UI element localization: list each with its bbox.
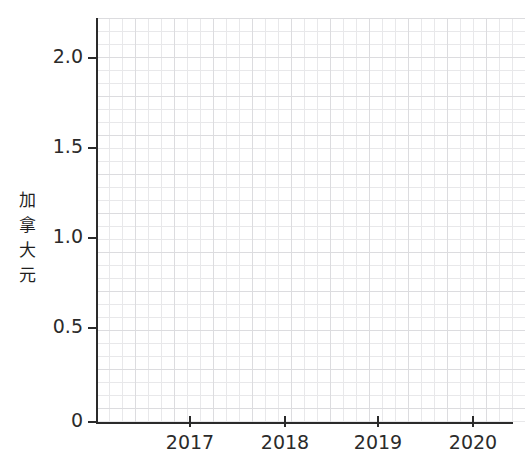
x-tick-mark bbox=[377, 416, 379, 427]
x-tick-label: 2019 bbox=[338, 431, 418, 453]
x-tick-mark bbox=[189, 416, 191, 427]
x-axis-spine bbox=[96, 422, 513, 424]
x-tick-label: 2018 bbox=[245, 431, 325, 453]
y-axis-title-char: 元 bbox=[14, 263, 40, 288]
y-tick-mark bbox=[88, 237, 97, 239]
y-tick-mark bbox=[88, 421, 97, 423]
y-tick-mark bbox=[88, 147, 97, 149]
y-tick-label: 1.5 bbox=[0, 135, 83, 157]
y-axis-title-char: 拿 bbox=[14, 213, 40, 238]
y-tick-label: 2.0 bbox=[0, 45, 83, 67]
plot-area bbox=[96, 18, 525, 422]
x-tick-mark bbox=[284, 416, 286, 427]
chart-figure: 2.01.51.00.50 2017201820192020 加拿大元 bbox=[0, 0, 525, 466]
y-axis-title: 加拿大元 bbox=[14, 188, 40, 288]
grid-major-lines bbox=[96, 18, 525, 422]
y-tick-label: 0.5 bbox=[0, 315, 83, 337]
x-tick-mark bbox=[472, 416, 474, 427]
y-tick-mark bbox=[88, 57, 97, 59]
y-tick-mark bbox=[88, 327, 97, 329]
y-tick-label: 0 bbox=[0, 409, 83, 431]
x-tick-label: 2020 bbox=[433, 431, 513, 453]
y-axis-title-char: 加 bbox=[14, 188, 40, 213]
y-axis-spine bbox=[96, 18, 98, 423]
y-axis-title-char: 大 bbox=[14, 238, 40, 263]
x-tick-label: 2017 bbox=[150, 431, 230, 453]
y-tick-label: 1.0 bbox=[0, 225, 83, 247]
